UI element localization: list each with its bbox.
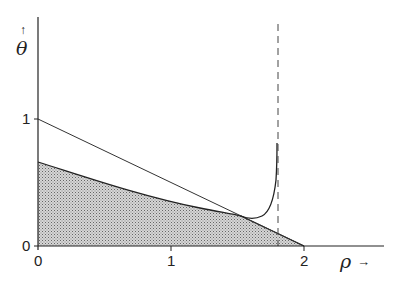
- diagram-canvas: 1 0 0 1 2 ↑ θ ρ →: [0, 0, 404, 283]
- x-tick-label-0: 0: [34, 252, 42, 269]
- x-axis-label: ρ: [339, 250, 352, 272]
- y-tick-label-0: 0: [22, 237, 30, 254]
- y-tick-label-1: 1: [22, 110, 30, 127]
- x-axis-arrow-icon: →: [357, 254, 370, 269]
- asymptotic-curve: [241, 143, 277, 218]
- y-axis-label: θ: [16, 37, 28, 59]
- x-tick-label-2: 2: [300, 252, 308, 269]
- y-axis-arrow-icon: ↑: [20, 23, 26, 37]
- x-tick-label-1: 1: [167, 252, 175, 269]
